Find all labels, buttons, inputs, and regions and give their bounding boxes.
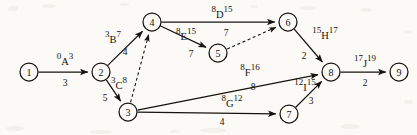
duration-B: 4 — [123, 48, 128, 58]
late-finish-J: 19 — [367, 53, 376, 63]
activity-label-C: 3C8 — [111, 76, 127, 92]
dummy-edge-5-6 — [227, 27, 276, 49]
early-start-H: 15 — [312, 25, 321, 35]
activity-label-H: 15H17 — [312, 26, 338, 42]
activity-label-J: 17J19 — [354, 54, 376, 70]
node-1: 1 — [20, 63, 38, 81]
activity-label-E: 8E15 — [176, 27, 196, 43]
late-finish-A: 3 — [69, 51, 74, 61]
node-label-3: 3 — [126, 107, 131, 118]
activity-label-B: 3B7 — [105, 30, 121, 46]
late-finish-E: 15 — [187, 26, 196, 36]
late-finish-G: 12 — [234, 93, 243, 103]
late-finish-D: 15 — [224, 4, 233, 14]
network-diagram-canvas: 123456789 0A333B743C858D1578E15715H1728F… — [0, 0, 417, 135]
node-layer: 123456789 — [20, 13, 408, 123]
duration-G: 4 — [220, 118, 225, 128]
node-7: 7 — [280, 105, 298, 123]
node-3: 3 — [119, 103, 137, 121]
node-8: 8 — [322, 63, 340, 81]
node-label-2: 2 — [99, 67, 104, 78]
node-label-5: 5 — [216, 48, 221, 59]
duration-D: 7 — [224, 29, 229, 39]
node-5: 5 — [209, 44, 227, 62]
duration-H: 2 — [302, 52, 307, 62]
activity-label-F: 8F16 — [240, 63, 259, 79]
activity-name-C: C — [115, 80, 122, 91]
node-label-4: 4 — [150, 17, 155, 28]
late-finish-H: 17 — [329, 25, 338, 35]
duration-E: 7 — [189, 50, 194, 60]
activity-label-D: 8D15 — [211, 5, 232, 21]
activity-name-G: G — [226, 98, 234, 109]
activity-name-A: A — [61, 56, 69, 67]
dummy-edge-3-4 — [131, 35, 149, 103]
duration-A: 3 — [63, 79, 68, 89]
activity-name-D: D — [216, 9, 224, 20]
node-9: 9 — [390, 63, 408, 81]
node-6: 6 — [279, 13, 297, 31]
duration-C: 5 — [103, 94, 108, 104]
late-finish-B: 7 — [117, 29, 122, 39]
activity-label-G: 8G12 — [221, 94, 242, 110]
node-label-9: 9 — [397, 67, 402, 78]
activity-label-I: 12I15 — [294, 78, 316, 94]
early-start-I: 12 — [294, 77, 303, 87]
duration-F: 8 — [251, 83, 256, 93]
early-start-J: 17 — [354, 53, 363, 63]
activity-name-H: H — [321, 30, 329, 41]
node-4: 4 — [143, 13, 161, 31]
late-finish-I: 15 — [307, 77, 316, 87]
activity-edge-G — [137, 112, 275, 114]
duration-I: 3 — [309, 97, 314, 107]
node-label-1: 1 — [27, 67, 32, 78]
duration-J: 2 — [363, 79, 368, 89]
activity-name-B: B — [109, 34, 116, 45]
node-label-6: 6 — [286, 17, 291, 28]
node-2: 2 — [92, 63, 110, 81]
node-label-8: 8 — [329, 67, 334, 78]
node-label-7: 7 — [287, 109, 292, 120]
late-finish-C: 8 — [123, 75, 128, 85]
activity-label-A: 0A3 — [57, 52, 74, 68]
late-finish-F: 16 — [251, 62, 260, 72]
